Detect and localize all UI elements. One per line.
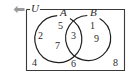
element-5: 5 [58, 21, 63, 31]
universal-set-label: U [30, 3, 40, 14]
element-8: 8 [113, 58, 118, 68]
set-label-b: B [90, 7, 97, 18]
element-3: 3 [71, 31, 76, 41]
element-7: 7 [55, 41, 60, 51]
element-6: 6 [71, 59, 76, 69]
set-label-a: A [60, 7, 67, 18]
element-2: 2 [38, 31, 43, 41]
element-4: 4 [32, 58, 37, 68]
element-9: 9 [94, 34, 99, 44]
venn-diagram-figure: A B U 5 2 7 3 1 9 4 6 8 [0, 0, 129, 83]
element-1: 1 [90, 21, 95, 31]
